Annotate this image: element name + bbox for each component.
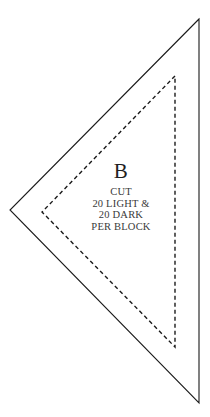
pattern-template-canvas: B CUT 20 LIGHT & 20 DARK PER BLOCK: [0, 0, 210, 417]
instruction-line-light-count: 20 LIGHT &: [74, 198, 168, 210]
instruction-line-dark-count: 20 DARK: [74, 209, 168, 221]
piece-letter: B: [74, 160, 168, 183]
cutting-instructions: CUT 20 LIGHT & 20 DARK PER BLOCK: [74, 186, 168, 232]
instruction-line-per-block: PER BLOCK: [74, 221, 168, 233]
instruction-line-cut: CUT: [74, 186, 168, 198]
template-label-group: B CUT 20 LIGHT & 20 DARK PER BLOCK: [74, 160, 168, 232]
